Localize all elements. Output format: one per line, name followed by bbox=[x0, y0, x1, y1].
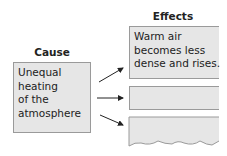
effect-box-3 bbox=[129, 117, 219, 146]
arrow-3-icon bbox=[100, 115, 123, 125]
diagram-graphics bbox=[0, 0, 227, 156]
arrow-1-icon bbox=[99, 68, 123, 82]
